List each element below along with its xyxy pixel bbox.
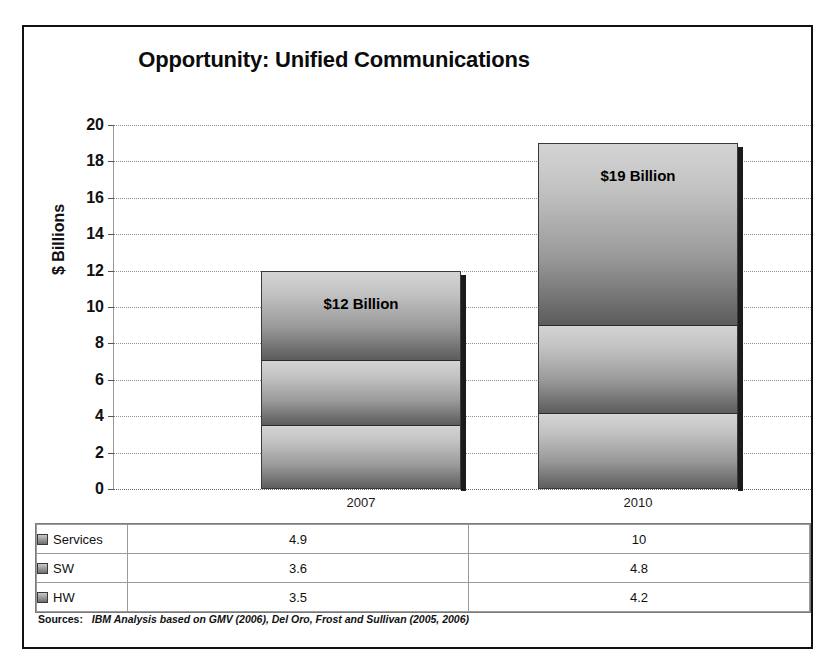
bar-stack-2007[interactable]: $12 Billion [261,271,461,489]
chart-title-lead: Opportunity: [138,47,269,72]
sources-label: Sources: [38,613,83,625]
table-row-label-services: Services [37,525,128,554]
y-tick-label: 16 [86,189,104,207]
chart-title: Opportunity: Unified Communications [24,47,644,73]
y-tick-mark [108,343,114,344]
y-tick-label: 2 [95,444,104,462]
y-tick-mark [108,453,114,454]
bar-segment-services-2007[interactable] [261,271,461,360]
table-cell-services-2007: 4.9 [128,525,469,554]
plot-wrapper: $12 Billion$19 Billion 20181614121086420 [113,125,811,489]
y-tick-label: 18 [86,152,104,170]
data-table: Services4.910SW3.64.8HW3.54.2 [35,523,811,613]
y-tick-mark [108,271,114,272]
legend-label-text: HW [53,590,75,605]
slide-frame: Opportunity: Unified Communications $ Bi… [22,25,813,649]
y-tick-mark [108,416,114,417]
legend-label-text: Services [53,532,103,547]
data-table-grid: Services4.910SW3.64.8HW3.54.2 [36,524,810,612]
bar-segment-sw-2007[interactable] [261,360,461,426]
table-cell-services-2010: 10 [469,525,810,554]
table-cell-hw-2007: 3.5 [128,583,469,612]
sources-text: IBM Analysis based on GMV (2006), Del Or… [92,613,469,625]
chart-title-rest: Unified Communications [275,47,530,72]
y-tick-mark [108,380,114,381]
gridline [113,125,811,126]
legend-swatch-icon [37,534,48,545]
y-tick-label: 12 [86,262,104,280]
category-label-2010: 2010 [578,495,698,510]
table-row: HW3.54.2 [37,583,810,612]
table-row-label-sw: SW [37,554,128,583]
bar-segment-hw-2007[interactable] [261,425,461,489]
bar-segment-hw-2010[interactable] [538,413,738,489]
legend-swatch-icon [37,563,48,574]
bar-total-label-2010: $19 Billion [538,167,738,184]
sources-note: Sources: IBM Analysis based on GMV (2006… [38,613,469,625]
y-tick-mark [108,198,114,199]
plot-area: $12 Billion$19 Billion 20181614121086420 [113,125,811,489]
y-tick-mark [108,125,114,126]
category-label-row: 20072010 [113,491,811,517]
y-tick-label: 0 [95,480,104,498]
y-tick-mark [108,161,114,162]
bar-segment-sw-2010[interactable] [538,325,738,412]
bar-shadow [738,147,743,491]
y-tick-label: 4 [95,407,104,425]
y-tick-mark [108,489,114,490]
y-tick-label: 14 [86,225,104,243]
y-tick-label: 8 [95,334,104,352]
table-cell-hw-2010: 4.2 [469,583,810,612]
bar-shadow [461,275,466,491]
table-row-label-hw: HW [37,583,128,612]
table-row: SW3.64.8 [37,554,810,583]
table-cell-sw-2007: 3.6 [128,554,469,583]
data-table-body: Services4.910SW3.64.8HW3.54.2 [37,525,810,612]
y-tick-label: 10 [86,298,104,316]
y-axis-title: $ Billions [50,204,68,275]
category-label-2007: 2007 [301,495,421,510]
table-row: Services4.910 [37,525,810,554]
bar-stack-2010[interactable]: $19 Billion [538,143,738,489]
legend-label-text: SW [53,561,74,576]
y-tick-mark [108,234,114,235]
table-cell-sw-2010: 4.8 [469,554,810,583]
y-tick-label: 20 [86,116,104,134]
bar-total-label-2007: $12 Billion [261,295,461,312]
y-tick-label: 6 [95,371,104,389]
y-tick-mark [108,307,114,308]
legend-swatch-icon [37,592,48,603]
